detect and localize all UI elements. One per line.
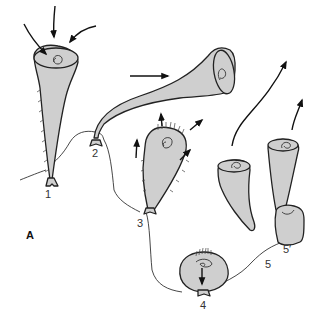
stage-label-5-prime: 5′ xyxy=(283,243,291,255)
stage-5-prime-cell xyxy=(268,100,304,245)
stage-label-5: 5 xyxy=(265,258,271,270)
up-arrow-center xyxy=(161,114,162,126)
panel-label: A xyxy=(26,229,34,241)
swim-away-arrow-left xyxy=(232,62,286,146)
stage-label-4: 4 xyxy=(200,299,206,311)
stage-1-cell xyxy=(24,6,96,186)
inflow-arrow-right xyxy=(70,26,96,42)
swim-away-arrow-right xyxy=(292,100,302,130)
stage-label-3: 3 xyxy=(137,217,143,229)
stage-label-1: 1 xyxy=(45,188,51,200)
stentor-life-stages-diagram: 1 A 2 3 4 5 xyxy=(0,0,322,319)
stage-4-cell xyxy=(180,248,228,296)
up-arrow-left xyxy=(136,140,137,158)
up-arrow-right xyxy=(190,120,202,130)
stage-label-2: 2 xyxy=(92,147,98,159)
stage-3-cell xyxy=(136,114,202,214)
inflow-arrow-top xyxy=(54,6,55,37)
